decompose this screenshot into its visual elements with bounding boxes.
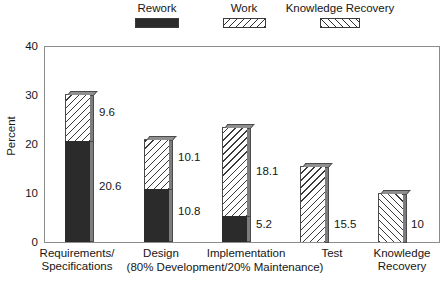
bar-side-face-rework-implementation (247, 216, 251, 242)
bar-side-face-work-design (169, 140, 173, 190)
legend-label-work: Work (205, 2, 283, 15)
y-tick-label-30: 30 (4, 90, 38, 101)
x-axis-label-line1: Knowledge (356, 247, 448, 260)
bar-side-face-knowledge-recovery (403, 194, 407, 243)
value-label-test-work: 15.5 (334, 218, 356, 230)
legend-swatch-work (223, 18, 266, 28)
bar-segment-work-design (144, 139, 170, 189)
value-label-knowledge-recovery: 10 (411, 218, 424, 230)
chart-legend: Rework Work Knowledge Recovery (0, 0, 448, 34)
bar-design (144, 139, 170, 242)
bar-implementation (222, 127, 248, 242)
value-label-requirements-work: 9.6 (99, 106, 115, 118)
x-axis-sublabel: (80% Development/20% Maintenance) (80, 261, 370, 274)
bar-side-face-work-test (325, 167, 329, 243)
plot-area (44, 46, 440, 243)
bar-segment-work-implementation (222, 127, 248, 216)
bar-knowledge-recovery (378, 193, 404, 242)
bar-segment-knowledge-recovery (378, 193, 404, 242)
legend-swatch-rework (135, 18, 179, 28)
bar-requirements-specifications (65, 94, 91, 242)
bar-segment-work-test (300, 166, 326, 242)
bar-segment-rework-requirements (65, 141, 91, 242)
legend-swatch-knowledge-recovery (320, 18, 360, 28)
y-tick-label-20: 20 (4, 139, 38, 150)
legend-item-rework: Rework (112, 2, 202, 28)
legend-item-knowledge-recovery: Knowledge Recovery (278, 2, 402, 28)
value-label-implementation-work: 18.1 (256, 165, 278, 177)
bar-segment-rework-implementation (222, 216, 248, 242)
value-label-design-work: 10.1 (178, 151, 200, 163)
legend-label-knowledge-recovery: Knowledge Recovery (278, 2, 402, 15)
y-axis-title: Percent (5, 100, 17, 172)
y-tick-label-10: 10 (4, 188, 38, 199)
bar-side-face-rework-design (169, 189, 173, 242)
value-label-design-rework: 10.8 (178, 205, 200, 217)
value-label-requirements-rework: 20.6 (99, 180, 121, 192)
legend-item-work: Work (205, 2, 283, 28)
bar-chart: Rework Work Knowledge Recovery Percent 4… (0, 0, 448, 285)
bar-segment-work-requirements (65, 94, 91, 141)
legend-label-rework: Rework (112, 2, 202, 15)
bar-segment-rework-design (144, 189, 170, 242)
value-label-implementation-rework: 5.2 (256, 218, 272, 230)
y-tick-label-40: 40 (4, 41, 38, 52)
bar-side-face-work-implementation (247, 128, 251, 217)
bar-side-face-work-requirements (90, 95, 94, 142)
bar-test (300, 166, 326, 242)
bar-side-face-rework-requirements (90, 141, 94, 242)
